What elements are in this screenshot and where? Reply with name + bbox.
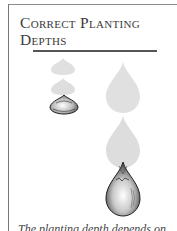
- caption-text: The planting depth depends on: [18, 222, 166, 231]
- title-divider: [33, 50, 157, 52]
- small-bulb-ghost-top-icon: [48, 56, 78, 76]
- sidebar-title: Correct Planting Depths: [20, 14, 140, 48]
- small-bulb-planted-icon: [48, 93, 80, 115]
- large-bulb-planted-icon: [103, 160, 143, 218]
- title-line-2: Depths: [20, 31, 140, 48]
- large-bulb-ghost-top-icon: [103, 60, 143, 115]
- title-line-1: Correct Planting: [20, 14, 140, 31]
